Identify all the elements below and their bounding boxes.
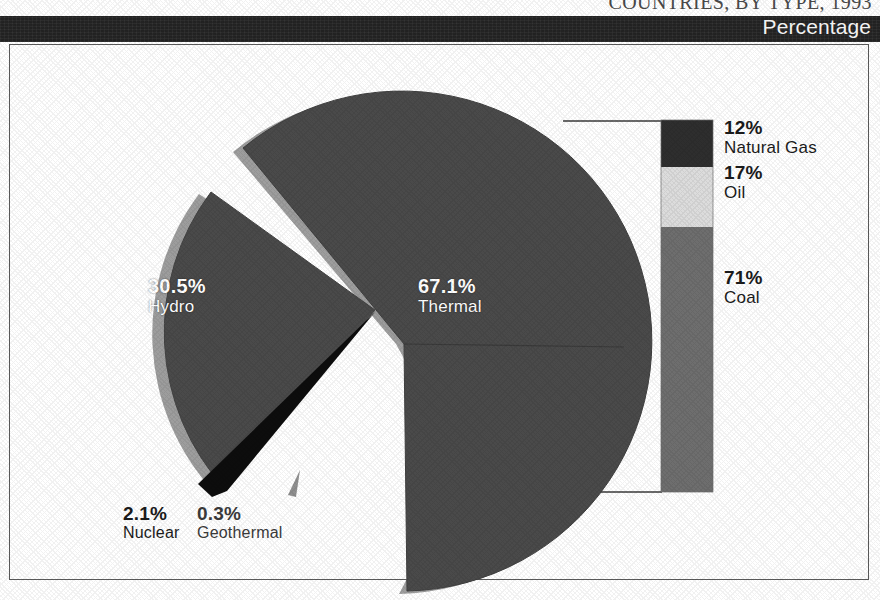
pie-label-nuclear-name: Nuclear (123, 524, 180, 542)
bar-legend-natural-gas-name: Natural Gas (724, 139, 817, 158)
pie-label-thermal: 67.1% Thermal (418, 275, 482, 316)
pie-label-geothermal: 0.3% Geothermal (197, 503, 283, 542)
bar-segment-natural-gas (661, 120, 713, 167)
pie-label-nuclear-pct: 2.1% (123, 503, 180, 524)
pie-label-thermal-pct: 67.1% (418, 275, 482, 297)
pie-slice-geothermal (288, 470, 300, 497)
bar-legend-oil: 17% Oil (724, 163, 763, 203)
bar-legend-coal: 71% Coal (724, 268, 763, 308)
bar-legend-coal-name: Coal (724, 289, 763, 308)
pie-label-geothermal-name: Geothermal (197, 524, 283, 542)
pie-label-hydro-name: Hydro (148, 297, 206, 316)
bar-segment-coal (661, 227, 713, 492)
pie-label-hydro-pct: 30.5% (148, 275, 206, 297)
pie-label-hydro: 30.5% Hydro (148, 275, 206, 316)
stacked-bar-breakout (661, 120, 713, 492)
bar-legend-oil-name: Oil (724, 184, 763, 203)
percentage-axis-label: Percentage (763, 15, 871, 39)
bar-segment-oil (661, 167, 713, 227)
pie-label-nuclear: 2.1% Nuclear (123, 503, 180, 542)
pie-label-geothermal-pct: 0.3% (197, 503, 283, 524)
bar-legend-natural-gas-pct: 12% (724, 118, 817, 139)
bar-legend-oil-pct: 17% (724, 163, 763, 184)
bar-legend-natural-gas: 12% Natural Gas (724, 118, 817, 158)
pie-label-thermal-name: Thermal (418, 297, 482, 316)
bar-legend-coal-pct: 71% (724, 268, 763, 289)
